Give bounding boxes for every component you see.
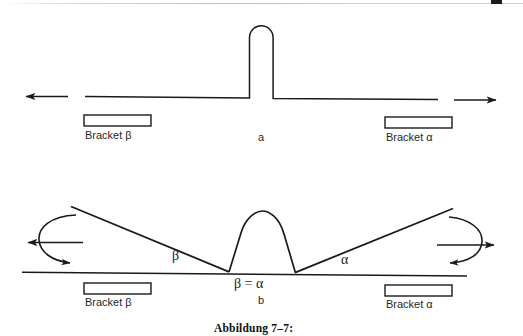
panel-a-letter: a <box>258 132 264 143</box>
panel-b-bracket-right-label: Bracket α <box>386 299 433 310</box>
panel-b-bracket-left-label: Bracket β <box>85 297 132 308</box>
panel-b-angle-left-label: β <box>172 249 179 263</box>
panel-b-letter: b <box>258 295 264 306</box>
panel-a-bracket-left-shape <box>84 115 151 126</box>
panel-b-bracket-left-shape <box>84 283 151 294</box>
panel-a-bracket-right-shape <box>385 117 452 128</box>
panel-b-peak-profile <box>229 211 296 273</box>
panel-b-equality-label: β = α <box>234 277 263 291</box>
panel-a-bracket-right-label: Bracket α <box>386 132 433 143</box>
panel-b-left-beam <box>71 207 229 272</box>
panel-a-beam-profile <box>85 26 438 100</box>
panel-a-graphics <box>26 26 496 128</box>
panel-b-angle-right-label: α <box>341 253 348 267</box>
panel-b-right-rotation-arc <box>449 217 482 263</box>
figure-page: Bracket β Bracket α a β α β = α b Bracke… <box>0 0 523 336</box>
panel-a-bracket-left-label: Bracket β <box>85 130 132 141</box>
panel-b-left-rotation-arc <box>39 215 76 263</box>
figure-caption: Abbildung 7–7: <box>214 322 293 334</box>
panel-b-bracket-right-shape <box>385 285 452 296</box>
panel-b-right-beam <box>295 209 453 273</box>
